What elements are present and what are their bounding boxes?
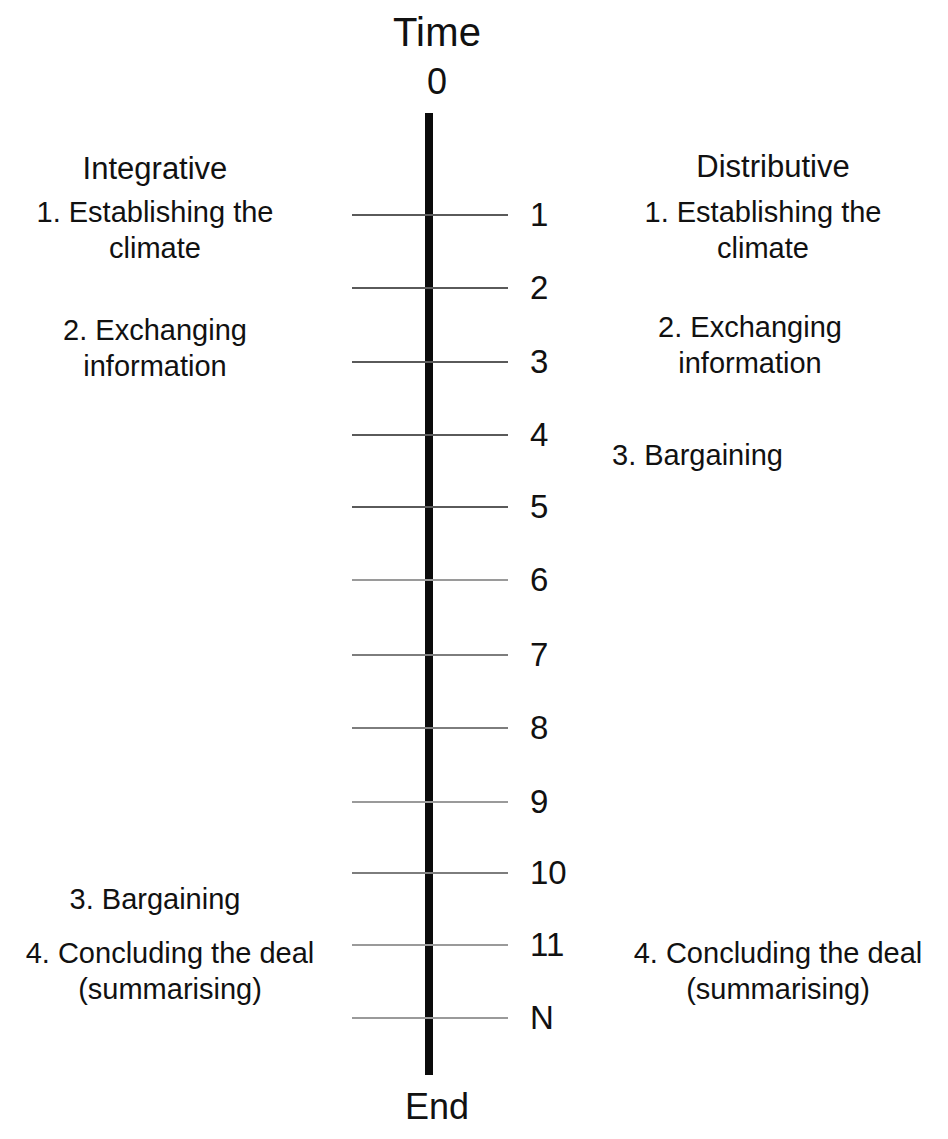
tick-label-11: 11 <box>530 928 564 961</box>
tick-label-2: 2 <box>530 271 548 304</box>
distributive-phase-3: 3. Bargaining <box>612 438 932 474</box>
axis-end-label: End <box>277 1085 597 1129</box>
tick-label-9: 9 <box>530 785 548 818</box>
tick-label-n: N <box>530 1001 554 1034</box>
tick-mark-1 <box>352 214 508 216</box>
tick-label-7: 7 <box>530 638 548 671</box>
column-heading-distributive: Distributive <box>628 148 918 186</box>
tick-label-5: 5 <box>530 490 548 523</box>
integrative-phase-3: 3. Bargaining <box>0 882 310 918</box>
time-axis-line <box>425 113 433 1075</box>
integrative-phase-4: 4. Concluding the deal (summarising) <box>0 936 340 1008</box>
tick-label-10: 10 <box>530 856 567 889</box>
distributive-phase-1: 1. Establishing the climate <box>608 195 918 267</box>
negotiation-phases-diagram: Time 0 End 1 2 3 4 5 6 7 8 9 10 11 N Int… <box>0 0 948 1139</box>
tick-mark-4 <box>352 434 508 436</box>
tick-mark-6 <box>352 579 508 581</box>
tick-label-6: 6 <box>530 563 548 596</box>
axis-start-label: 0 <box>277 60 597 104</box>
tick-mark-11 <box>352 944 508 946</box>
tick-label-4: 4 <box>530 418 548 451</box>
distributive-phase-4: 4. Concluding the deal (summarising) <box>608 936 948 1008</box>
axis-title: Time <box>277 8 597 57</box>
column-heading-integrative: Integrative <box>10 150 300 188</box>
tick-mark-8 <box>352 727 508 729</box>
integrative-phase-2: 2. Exchanging information <box>0 313 310 385</box>
tick-mark-9 <box>352 801 508 803</box>
tick-mark-5 <box>352 506 508 508</box>
tick-label-8: 8 <box>530 711 548 744</box>
tick-mark-10 <box>352 872 508 874</box>
tick-mark-7 <box>352 654 508 656</box>
tick-mark-3 <box>352 361 508 363</box>
integrative-phase-1: 1. Establishing the climate <box>0 195 310 267</box>
tick-label-1: 1 <box>530 198 548 231</box>
tick-mark-2 <box>352 287 508 289</box>
tick-label-3: 3 <box>530 345 548 378</box>
distributive-phase-2: 2. Exchanging information <box>600 310 900 382</box>
tick-mark-n <box>352 1017 508 1019</box>
